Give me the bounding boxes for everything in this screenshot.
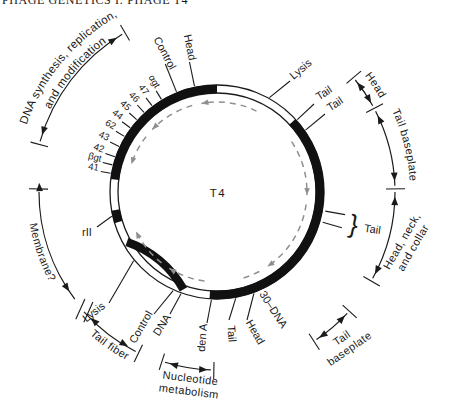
arrowhead	[391, 172, 398, 181]
head-bottom-label: Head	[244, 318, 268, 347]
tick	[159, 354, 164, 370]
control-top-label: Control	[152, 34, 179, 71]
dna-30-label: 30–DNA	[257, 289, 290, 331]
head-top-label: Head	[182, 33, 199, 61]
svg-text:Tail baseplate: Tail baseplate	[390, 107, 419, 182]
gene-block-right	[210, 122, 320, 295]
tail-right-label: Tail	[364, 222, 382, 236]
arrowhead	[364, 94, 374, 105]
gene-ticks: 41 βgt 42 43 62 44 45 46 47 αgt	[87, 73, 163, 174]
region-annotation-arcs	[29, 25, 405, 379]
tick	[134, 345, 142, 362]
gene-block-rii	[116, 210, 119, 222]
arrowhead	[36, 183, 43, 192]
tick	[31, 142, 48, 147]
arrowhead	[391, 197, 398, 206]
den-a-label: den A	[195, 322, 209, 352]
control-bottom-label: Control	[126, 309, 154, 346]
gene-block-lysis	[127, 242, 184, 290]
tick	[121, 25, 130, 41]
arrowhead	[62, 283, 72, 294]
t4-genome-map: T4 41 βgt 42 43 62 44 45 46 47 αgt Contr…	[0, 0, 449, 419]
gene-label-43: 43	[97, 128, 111, 142]
phage-name-label: T4	[210, 187, 226, 199]
tail-brace-icon: }	[347, 209, 362, 240]
tail-bottom-label: Tail	[225, 325, 238, 342]
arrowhead	[199, 366, 208, 373]
arrowhead	[39, 126, 48, 136]
arrowhead	[375, 114, 385, 125]
arrowhead	[372, 265, 382, 276]
annotation-texts: DNA synthesis, replication, and modifica…	[17, 7, 434, 400]
tail-baseplate-right-label: Tail baseplate	[390, 107, 419, 182]
tick	[363, 277, 379, 287]
arrowhead	[108, 35, 119, 45]
ring-labels: Control Head Lysis Tail Tail } Tail rII …	[80, 33, 381, 352]
tick	[309, 334, 319, 350]
tick	[366, 104, 383, 113]
rii-label: rII	[82, 226, 92, 238]
tick	[347, 71, 362, 83]
arrowhead	[169, 360, 179, 369]
lysis-upper-label: Lysis	[287, 56, 314, 81]
